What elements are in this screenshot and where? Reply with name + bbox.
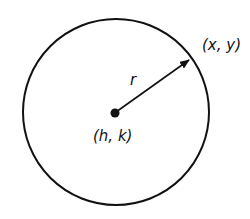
radius-label: r xyxy=(130,71,137,89)
center-point xyxy=(111,109,120,118)
circle-diagram: (x, y) r (h, k) xyxy=(0,0,250,219)
center-label: (h, k) xyxy=(93,127,132,145)
point-label: (x, y) xyxy=(202,36,241,54)
radius-arrow xyxy=(116,60,189,112)
